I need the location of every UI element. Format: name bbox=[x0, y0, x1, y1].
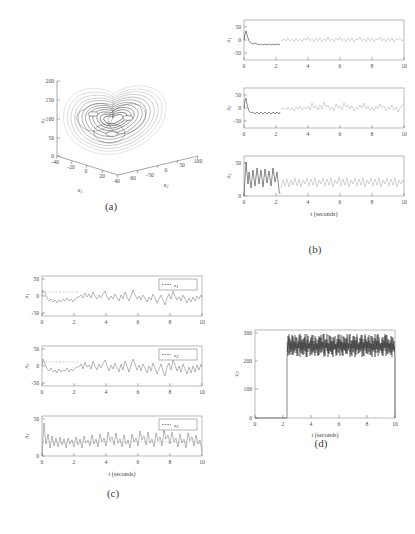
panel-c-3-plot: 50 0 0 2 4 6 8 10 x3 bbox=[16, 410, 211, 488]
tick-label: 4 bbox=[310, 421, 313, 427]
panel-b-3-plot: 50 0 0 2 4 6 8 10 x3 t (seconds) bbox=[218, 150, 413, 228]
panel-c-2-ylabel: x2 bbox=[22, 363, 30, 370]
panel-b: 50 0 -50 0 2 4 6 8 10 x1 bbox=[218, 14, 413, 228]
tick-label: 10 bbox=[401, 131, 407, 137]
tick-label: 0 bbox=[36, 293, 39, 299]
tick-label: 8 bbox=[169, 459, 172, 465]
panel-b-1-yticks: 50 0 -50 bbox=[234, 24, 247, 56]
tick-label: 4 bbox=[307, 199, 310, 205]
panel-b-2-ylabel: x2 bbox=[224, 105, 232, 112]
tick-label: 2 bbox=[73, 319, 76, 325]
tick-label: 6 bbox=[339, 199, 342, 205]
panel-c-1-legend: x1 bbox=[159, 279, 197, 290]
tick-label: 8 bbox=[169, 389, 172, 395]
tick-label: 50 bbox=[179, 162, 185, 168]
panel-a-attractor bbox=[63, 86, 166, 155]
panel-d-xticks: 0 2 4 6 8 10 bbox=[254, 415, 398, 427]
tick-label: 8 bbox=[371, 131, 374, 137]
panel-d-caption: (d) bbox=[301, 437, 341, 449]
tick-label: 2 bbox=[73, 459, 76, 465]
panel-b-3-steady-trace bbox=[281, 177, 404, 188]
tick-label: 50 bbox=[48, 135, 54, 141]
tick-label: 10 bbox=[199, 389, 205, 395]
tick-label: 100 bbox=[194, 158, 203, 164]
panel-c-2-yticks: 50 0 -50 bbox=[32, 346, 45, 386]
panel-a-xaxis-label: x1 bbox=[76, 186, 82, 194]
tick-label: 0 bbox=[41, 459, 44, 465]
tick-label: 50 bbox=[33, 346, 39, 352]
panel-c-1-xticks: 0 2 4 6 8 10 bbox=[41, 313, 205, 325]
tick-label: 2 bbox=[73, 389, 76, 395]
tick-label: 8 bbox=[371, 63, 374, 69]
panel-a-caption: (a) bbox=[91, 200, 131, 212]
tick-label: 0 bbox=[238, 37, 241, 43]
panel-b-3-xticks: 0 2 4 6 8 10 bbox=[243, 193, 407, 205]
tick-label: 6 bbox=[137, 319, 140, 325]
tick-label: 6 bbox=[338, 421, 341, 427]
panel-a-plot: 200 150 100 50 0 -40 -20 0 20 bbox=[14, 48, 204, 198]
tick-label: 50 bbox=[33, 276, 39, 282]
tick-label: 0 bbox=[238, 105, 241, 111]
panel-a: 200 150 100 50 0 -40 -20 0 20 bbox=[14, 48, 204, 198]
tick-label: 100 bbox=[244, 386, 253, 392]
panel-c-2-plot: 50 0 -50 0 2 4 6 8 10 bbox=[16, 340, 211, 402]
figure-canvas: 200 150 100 50 0 -40 -20 0 20 bbox=[0, 0, 415, 534]
tick-label: 0 bbox=[254, 421, 257, 427]
tick-label: -20 bbox=[67, 164, 75, 170]
panel-b-1-steady-trace bbox=[281, 37, 404, 42]
tick-label: 50 bbox=[235, 24, 241, 30]
tick-label: 0 bbox=[36, 363, 39, 369]
panel-b-1-transient-trace bbox=[244, 31, 280, 45]
tick-label: -50 bbox=[146, 172, 154, 178]
tick-label: 6 bbox=[339, 63, 342, 69]
tick-label: 0 bbox=[243, 199, 246, 205]
panel-d-noise-band bbox=[287, 334, 395, 359]
panel-d-plot: 300 200 100 0 0 2 4 6 8 10 bbox=[222, 322, 412, 437]
panel-c-2-trace bbox=[42, 359, 202, 376]
panel-b-2-plot: 50 0 -50 0 2 4 6 8 10 x2 bbox=[218, 82, 413, 144]
tick-label: 4 bbox=[105, 389, 108, 395]
panel-a-y-ticks: -50 0 50 100 bbox=[137, 156, 202, 178]
panel-c-3-xlabel: t (seconds) bbox=[109, 470, 136, 478]
panel-c-2-xticks: 0 2 4 6 8 10 bbox=[41, 383, 205, 395]
tick-label: -50 bbox=[234, 118, 242, 124]
panel-b-2-transient-trace bbox=[244, 98, 280, 114]
tick-label: 10 bbox=[401, 199, 407, 205]
tick-label: -50 bbox=[234, 50, 242, 56]
tick-label: 0 bbox=[243, 63, 246, 69]
panel-b-caption: (b) bbox=[295, 243, 335, 255]
tick-label: 6 bbox=[137, 389, 140, 395]
tick-label: -40 bbox=[51, 159, 59, 165]
tick-label: 4 bbox=[307, 63, 310, 69]
tick-label: 6 bbox=[339, 131, 342, 137]
tick-label: 20 bbox=[99, 173, 105, 179]
tick-label: 50 bbox=[33, 416, 39, 422]
panel-b-1-ylabel: x1 bbox=[224, 37, 232, 43]
tick-label: 10 bbox=[392, 421, 398, 427]
tick-label: 2 bbox=[275, 199, 278, 205]
tick-label: 10 bbox=[401, 63, 407, 69]
tick-label: 0 bbox=[165, 167, 168, 173]
tick-label: 50 bbox=[235, 160, 241, 166]
tick-label: 0 bbox=[41, 319, 44, 325]
panel-c-1-ylabel: x1 bbox=[22, 293, 30, 299]
panel-b-2-yticks: 50 0 -50 bbox=[234, 92, 247, 124]
tick-label: 0 bbox=[85, 168, 88, 174]
tick-label: 100 bbox=[46, 116, 55, 122]
panel-a-zaxis-label: x3 bbox=[38, 118, 46, 125]
panel-c-3-legend: x3 bbox=[159, 419, 197, 430]
panel-d: 300 200 100 0 0 2 4 6 8 10 bbox=[222, 322, 412, 437]
panel-b-1-xticks: 0 2 4 6 8 10 bbox=[243, 57, 407, 69]
panel-a-x-ticks: -40 -20 0 20 40 60 bbox=[51, 156, 136, 184]
tick-label: 0 bbox=[249, 415, 252, 421]
panel-d-ylabel: c0 bbox=[232, 371, 240, 377]
tick-label: 4 bbox=[105, 319, 108, 325]
tick-label: 0 bbox=[36, 453, 39, 459]
tick-label: 8 bbox=[366, 421, 369, 427]
tick-label: 60 bbox=[130, 175, 136, 181]
panel-c-3-xticks: 0 2 4 6 8 10 bbox=[41, 453, 205, 465]
tick-label: 4 bbox=[307, 131, 310, 137]
panel-c-1-yticks: 50 0 -50 bbox=[32, 276, 45, 316]
panel-b-2-steady-trace bbox=[281, 102, 404, 112]
tick-label: 0 bbox=[238, 193, 241, 199]
